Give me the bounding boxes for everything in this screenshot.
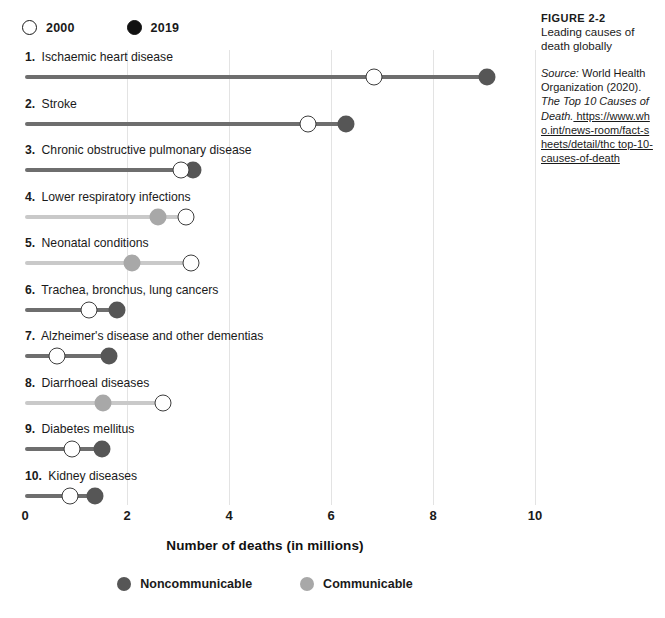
row-connector-track (25, 122, 346, 126)
year-legend-item-2000: 2000 (22, 20, 75, 35)
chart-row: 3. Chronic obstructive pulmonary disease (0, 143, 530, 190)
x-tick-label: 10 (528, 508, 542, 523)
chart-panel: 20002019 1. Ischaemic heart disease2. St… (0, 0, 530, 618)
row-name: Trachea, bronchus, lung cancers (38, 283, 218, 297)
filled-circle-icon (127, 20, 142, 35)
row-label: 5. Neonatal conditions (25, 236, 149, 250)
x-tick-label: 0 (21, 508, 28, 523)
marker-2000 (177, 208, 194, 225)
marker-2000 (63, 441, 80, 458)
row-label: 3. Chronic obstructive pulmonary disease (25, 143, 252, 157)
row-rank: 3. (25, 143, 35, 157)
figure-title: Leading causes of death globally (541, 25, 653, 53)
row-name: Neonatal conditions (38, 236, 148, 250)
row-rank: 1. (25, 50, 35, 64)
row-label: 8. Diarrhoeal diseases (25, 376, 149, 390)
row-rank: 7. (25, 329, 35, 343)
row-name: Ischaemic heart disease (38, 50, 173, 64)
row-label: 2. Stroke (25, 97, 77, 111)
row-connector-line (25, 75, 487, 79)
figure-number: FIGURE 2-2 (541, 12, 653, 24)
row-name: Diarrhoeal diseases (38, 376, 149, 390)
x-tick-label: 4 (225, 508, 232, 523)
row-label: 9. Diabetes mellitus (25, 422, 134, 436)
marker-2000 (49, 348, 66, 365)
row-label: 1. Ischaemic heart disease (25, 50, 173, 64)
x-tick-label: 8 (429, 508, 436, 523)
marker-2000 (80, 301, 97, 318)
row-rank: 8. (25, 376, 35, 390)
marker-2000 (61, 487, 78, 504)
source-prefix: Source: (541, 67, 579, 79)
category-legend-label: Noncommunicable (140, 577, 252, 591)
year-legend-label: 2019 (151, 21, 180, 35)
marker-2000 (366, 69, 383, 86)
caption-panel: FIGURE 2-2 Leading causes of death globa… (541, 12, 653, 165)
chart-row: 9. Diabetes mellitus (0, 422, 530, 469)
gridline-10 (535, 50, 536, 505)
row-label: 7. Alzheimer's disease and other dementi… (25, 329, 263, 343)
chart-row: 5. Neonatal conditions (0, 236, 530, 283)
year-legend: 20002019 (22, 20, 179, 35)
row-connector-track (25, 261, 191, 265)
row-connector-line (25, 308, 117, 312)
figure-page: 20002019 1. Ischaemic heart disease2. St… (0, 0, 665, 618)
x-axis-title: Number of deaths (in millions) (0, 538, 530, 553)
row-rank: 10. (25, 469, 42, 483)
row-connector-line (25, 354, 109, 358)
marker-2000 (300, 115, 317, 132)
chart-row: 4. Lower respiratory infections (0, 190, 530, 237)
row-name: Alzheimer's disease and other dementias (38, 329, 263, 343)
row-name: Lower respiratory infections (38, 190, 190, 204)
marker-2000 (154, 394, 171, 411)
row-connector-line (25, 168, 193, 172)
row-connector-line (25, 494, 95, 498)
row-connector-track (25, 308, 117, 312)
row-name: Kidney diseases (45, 469, 137, 483)
row-name: Diabetes mellitus (38, 422, 134, 436)
row-name: Chronic obstructive pulmonary disease (38, 143, 251, 157)
chart-row: 7. Alzheimer's disease and other dementi… (0, 329, 530, 376)
filled-circle-icon (117, 577, 131, 591)
category-legend-item-noncommunicable: Noncommunicable (117, 577, 252, 591)
x-axis: 0246810 (0, 508, 530, 538)
marker-2019 (478, 69, 495, 86)
plot-area: 1. Ischaemic heart disease2. Stroke3. Ch… (0, 50, 530, 515)
row-label: 6. Trachea, bronchus, lung cancers (25, 283, 218, 297)
category-legend: NoncommunicableCommunicable (0, 577, 530, 591)
row-rank: 5. (25, 236, 35, 250)
row-rank: 2. (25, 97, 35, 111)
row-connector-line (25, 122, 346, 126)
row-connector-line (25, 261, 191, 265)
marker-2019 (149, 208, 166, 225)
marker-2019 (124, 255, 141, 272)
hollow-circle-icon (22, 20, 37, 35)
marker-2019 (108, 301, 125, 318)
row-connector-track (25, 354, 109, 358)
figure-source: Source: World Health Organization (2020)… (541, 66, 653, 165)
row-connector-track (25, 75, 487, 79)
row-rank: 4. (25, 190, 35, 204)
category-legend-item-communicable: Communicable (300, 577, 413, 591)
x-tick-label: 6 (327, 508, 334, 523)
row-connector-track (25, 168, 193, 172)
marker-2019 (101, 348, 118, 365)
chart-row: 8. Diarrhoeal diseases (0, 376, 530, 423)
marker-2019 (93, 441, 110, 458)
row-rank: 6. (25, 283, 35, 297)
marker-2000 (182, 255, 199, 272)
row-connector-track (25, 494, 95, 498)
marker-2019 (86, 487, 103, 504)
marker-2000 (172, 162, 189, 179)
marker-2019 (338, 115, 355, 132)
chart-row: 2. Stroke (0, 97, 530, 144)
row-label: 10. Kidney diseases (25, 469, 137, 483)
chart-row: 6. Trachea, bronchus, lung cancers (0, 283, 530, 330)
chart-row: 1. Ischaemic heart disease (0, 50, 530, 97)
x-tick-label: 2 (123, 508, 130, 523)
row-rank: 9. (25, 422, 35, 436)
filled-circle-icon (300, 577, 314, 591)
category-legend-label: Communicable (323, 577, 413, 591)
year-legend-item-2019: 2019 (127, 20, 180, 35)
year-legend-label: 2000 (46, 21, 75, 35)
